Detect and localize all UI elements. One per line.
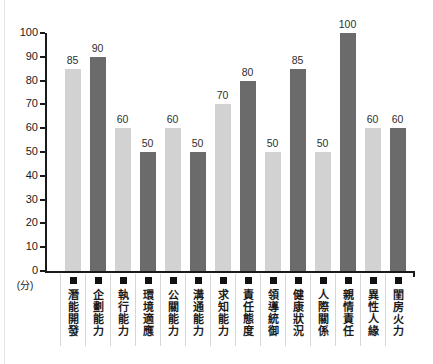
category-label: 環境適應 (142, 289, 154, 337)
category-square-marker-icon (345, 277, 352, 284)
bar-value-label: 70 (210, 89, 235, 101)
y-tick-mark (40, 151, 45, 153)
score-bar-chart: 0102030405060708090100 (分) 8590605060507… (0, 0, 433, 364)
y-tick-mark (40, 270, 45, 272)
category-slot: 健康狀況 (285, 274, 310, 346)
y-tick-mark (40, 246, 45, 248)
bar-value-label: 80 (235, 66, 260, 78)
category-slot: 環境適應 (135, 274, 160, 346)
category-label: 人際關係 (317, 289, 329, 337)
category-label: 異性人緣 (367, 289, 379, 337)
y-tick-label: 100 (0, 26, 38, 39)
bar-value-label: 60 (110, 113, 135, 125)
bar (365, 128, 381, 271)
bar-value-label: 90 (85, 42, 110, 54)
category-slot: 執行能力 (110, 274, 135, 346)
category-square-marker-icon (370, 277, 377, 284)
bar (315, 152, 331, 271)
category-square-marker-icon (70, 277, 77, 284)
y-tick-label: 0 (0, 264, 38, 277)
category-square-marker-icon (170, 277, 177, 284)
bar (290, 69, 306, 271)
y-tick-mark (40, 222, 45, 224)
bar (265, 152, 281, 271)
category-slot: 責任態度 (235, 274, 260, 346)
category-label: 公關能力 (167, 289, 179, 337)
category-slot: 潛能開發 (60, 274, 85, 346)
bar (340, 33, 356, 271)
y-tick-label: 90 (0, 50, 38, 63)
category-label: 潛能開發 (67, 289, 79, 337)
category-slot: 公關能力 (160, 274, 185, 346)
y-tick-mark (40, 103, 45, 105)
category-slot: 求知能力 (210, 274, 235, 346)
category-square-marker-icon (145, 277, 152, 284)
bar-value-label: 50 (260, 137, 285, 149)
y-tick-label: 10 (0, 240, 38, 253)
y-tick-label: 30 (0, 193, 38, 206)
category-square-marker-icon (270, 277, 277, 284)
category-square-marker-icon (120, 277, 127, 284)
category-label: 企劃能力 (92, 289, 104, 337)
bar (65, 69, 81, 271)
category-label: 親情責任 (342, 289, 354, 337)
bar (165, 128, 181, 271)
bar (140, 152, 156, 271)
bar (115, 128, 131, 271)
y-tick-label: 50 (0, 145, 38, 158)
y-tick-label: 60 (0, 121, 38, 134)
bar (215, 104, 231, 271)
bar (390, 128, 406, 271)
category-square-marker-icon (245, 277, 252, 284)
category-slot: 親情責任 (335, 274, 360, 346)
category-slot: 領導統御 (260, 274, 285, 346)
category-square-marker-icon (95, 277, 102, 284)
category-label: 閨房火力 (392, 289, 404, 337)
category-square-marker-icon (295, 277, 302, 284)
bar (90, 57, 106, 271)
x-axis-end-tick (413, 271, 415, 277)
bar-value-label: 85 (60, 54, 85, 66)
bar-value-label: 100 (335, 18, 360, 30)
bar (240, 81, 256, 271)
y-tick-label: 40 (0, 169, 38, 182)
category-label: 溝通能力 (192, 289, 204, 337)
y-tick-mark (40, 56, 45, 58)
bar-value-label: 50 (185, 137, 210, 149)
category-label: 求知能力 (217, 289, 229, 337)
category-labels-row: 潛能開發企劃能力執行能力環境適應公關能力溝通能力求知能力責任態度領導統御健康狀況… (60, 274, 410, 346)
category-slot: 人際關係 (310, 274, 335, 346)
y-tick-mark (40, 32, 45, 34)
y-tick-mark (40, 127, 45, 129)
y-tick-mark (40, 80, 45, 82)
y-tick-label: 80 (0, 74, 38, 87)
category-slot: 閨房火力 (385, 274, 410, 346)
category-square-marker-icon (320, 277, 327, 284)
y-tick-label: 70 (0, 97, 38, 110)
bar-value-label: 50 (135, 137, 160, 149)
category-square-marker-icon (195, 277, 202, 284)
bar (190, 152, 206, 271)
bar-value-label: 85 (285, 54, 310, 66)
category-label: 責任態度 (242, 289, 254, 337)
bar-value-label: 60 (360, 113, 385, 125)
y-tick-mark (40, 199, 45, 201)
category-slot: 溝通能力 (185, 274, 210, 346)
category-slot: 異性人緣 (360, 274, 385, 346)
bar-value-label: 50 (310, 137, 335, 149)
category-label: 領導統御 (267, 289, 279, 337)
category-slot: 企劃能力 (85, 274, 110, 346)
y-axis-unit-label: (分) (10, 277, 40, 292)
bar-value-label: 60 (385, 113, 410, 125)
category-square-marker-icon (395, 277, 402, 284)
bar-value-label: 60 (160, 113, 185, 125)
category-square-marker-icon (220, 277, 227, 284)
category-label: 健康狀況 (292, 289, 304, 337)
category-label: 執行能力 (117, 289, 129, 337)
y-tick-mark (40, 175, 45, 177)
y-tick-label: 20 (0, 216, 38, 229)
